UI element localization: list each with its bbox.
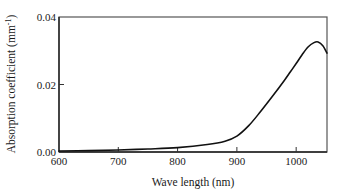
x-tick-label: 700: [110, 155, 127, 167]
y-axis-ticks: 0.000.020.04: [37, 11, 64, 158]
y-axis-label: Absorption coefficient (mm-1): [4, 14, 18, 153]
x-tick-label: 800: [169, 155, 186, 167]
x-tick-label: 900: [229, 155, 246, 167]
y-tick-label: 0.00: [37, 146, 57, 158]
y-tick-label: 0.02: [37, 79, 56, 91]
y-tick-label: 0.04: [37, 11, 57, 23]
absorption-curve: [59, 42, 327, 151]
x-axis-label: Wave length (nm): [152, 176, 235, 189]
absorption-chart: 6007008009001000 0.000.020.04 Wave lengt…: [0, 0, 346, 196]
x-tick-label: 1000: [285, 155, 308, 167]
plot-frame: [59, 17, 327, 152]
